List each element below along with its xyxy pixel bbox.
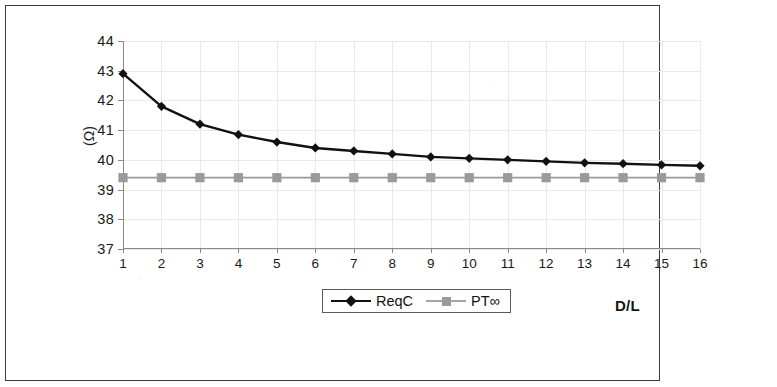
data-point-marker: [311, 143, 320, 152]
legend-marker-square-icon: [426, 295, 466, 308]
data-point-marker: [580, 158, 589, 167]
data-point-marker: [272, 173, 281, 182]
x-tick: [623, 249, 624, 253]
data-point-marker: [503, 155, 512, 164]
grid-line-vertical: [700, 41, 701, 249]
x-tick-label: 15: [654, 256, 669, 271]
x-tick: [700, 249, 701, 253]
legend-marker-diamond-icon: [331, 295, 371, 308]
legend-label-reqc: ReqC: [376, 293, 413, 309]
data-point-marker: [657, 173, 666, 182]
grid-line-horizontal: [123, 249, 700, 250]
x-tick: [277, 249, 278, 253]
y-tick-label: 37: [97, 241, 114, 257]
legend-item-pt-infinity: PT∞: [426, 293, 500, 309]
x-tick-label: 16: [692, 256, 707, 271]
x-tick-label: 3: [196, 256, 204, 271]
data-point-marker: [657, 160, 666, 169]
x-tick-label: 12: [539, 256, 554, 271]
data-point-marker: [580, 173, 589, 182]
data-point-marker: [234, 173, 243, 182]
data-point-marker: [542, 157, 551, 166]
x-tick: [200, 249, 201, 253]
y-tick-label: 38: [97, 211, 114, 227]
y-tick-label: 39: [97, 182, 114, 198]
x-tick: [585, 249, 586, 253]
data-point-marker: [157, 173, 166, 182]
data-point-marker: [426, 152, 435, 161]
x-tick-label: 10: [462, 256, 477, 271]
data-point-marker: [542, 173, 551, 182]
x-tick: [546, 249, 547, 253]
x-tick: [315, 249, 316, 253]
data-point-marker: [465, 173, 474, 182]
y-tick-label: 42: [97, 92, 114, 108]
series-pt-: [118, 173, 704, 182]
data-point-marker: [272, 137, 281, 146]
y-tick-label: 44: [97, 33, 114, 49]
y-tick-label: 40: [97, 152, 114, 168]
x-tick-label: 8: [389, 256, 397, 271]
x-tick-label: 11: [501, 256, 515, 271]
x-tick-label: 2: [158, 256, 166, 271]
data-point-marker: [695, 161, 704, 170]
x-tick: [238, 249, 239, 253]
series-line: [123, 74, 700, 166]
data-point-marker: [426, 173, 435, 182]
data-point-marker: [349, 173, 358, 182]
x-tick-label: 4: [235, 256, 243, 271]
x-tick: [161, 249, 162, 253]
x-axis-title: D/L: [615, 297, 640, 314]
data-point-marker: [618, 173, 627, 182]
data-point-marker: [195, 120, 204, 129]
series-reqc: [118, 69, 704, 170]
data-point-marker: [465, 154, 474, 163]
y-axis-title: (Ω): [81, 126, 97, 146]
data-point-marker: [618, 159, 627, 168]
legend-label-pt-infinity: PT∞: [471, 293, 500, 309]
data-point-marker: [388, 173, 397, 182]
x-tick-label: 1: [119, 256, 127, 271]
x-tick-label: 7: [350, 256, 358, 271]
data-point-marker: [195, 173, 204, 182]
x-tick-label: 9: [427, 256, 435, 271]
x-tick-label: 6: [312, 256, 320, 271]
data-point-marker: [349, 146, 358, 155]
data-point-marker: [388, 149, 397, 158]
y-tick-label: 43: [97, 63, 114, 79]
x-tick: [469, 249, 470, 253]
x-tick-label: 13: [577, 256, 592, 271]
x-tick-label: 5: [273, 256, 281, 271]
chart-legend: ReqC PT∞: [322, 289, 511, 313]
x-tick: [662, 249, 663, 253]
data-point-marker: [695, 173, 704, 182]
x-tick-label: 14: [616, 256, 631, 271]
y-tick-label: 41: [97, 122, 114, 138]
data-point-marker: [503, 173, 512, 182]
x-tick: [123, 249, 124, 253]
data-point-marker: [234, 130, 243, 139]
plot-area: 3738394041424344 12345678910111213141516: [123, 41, 700, 249]
series-layer: [123, 41, 700, 249]
x-tick: [354, 249, 355, 253]
x-tick: [392, 249, 393, 253]
data-point-marker: [311, 173, 320, 182]
legend-item-reqc: ReqC: [331, 293, 413, 309]
data-point-marker: [118, 173, 127, 182]
x-tick: [431, 249, 432, 253]
x-tick: [508, 249, 509, 253]
